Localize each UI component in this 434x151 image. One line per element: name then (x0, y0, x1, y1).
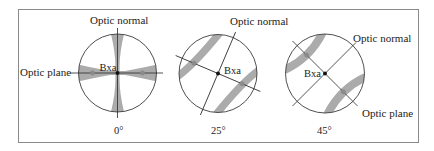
angle-label: 45° (317, 125, 332, 136)
angle-label: 25° (211, 125, 226, 136)
optic-plane-label: Optic plane (20, 66, 71, 78)
angle-label: 0° (114, 125, 123, 136)
bxa-label: Bxa (100, 62, 117, 73)
melatope-left (90, 71, 95, 76)
bxa-point (323, 72, 327, 76)
bxa-point (216, 72, 220, 76)
melatope-lower (341, 90, 346, 95)
optic-normal-label: Optic normal (230, 15, 288, 27)
optic-plane-label: Optic plane (362, 107, 413, 119)
interference-figures-diagram: Optic normal Optic plane Bxa 0° Optic no… (0, 0, 434, 151)
optic-normal-label: Optic normal (90, 14, 148, 26)
optic-normal-label: Optic normal (353, 32, 411, 44)
melatope-right (140, 71, 145, 76)
bxa-label: Bxa (224, 65, 241, 76)
melatope-upper (304, 53, 309, 58)
bxa-label: Bxa (304, 68, 321, 79)
